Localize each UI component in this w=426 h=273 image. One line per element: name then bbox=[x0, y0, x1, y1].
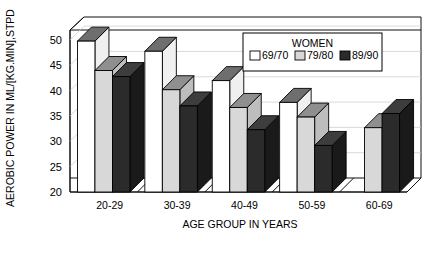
bar-front-face bbox=[297, 117, 315, 192]
chart-canvas: 20253035404550 20-2930-3940-4950-5960-69… bbox=[0, 0, 426, 273]
bar-side-face bbox=[130, 63, 144, 192]
bar-side-face bbox=[400, 100, 414, 192]
bar-front-face bbox=[162, 90, 180, 192]
legend-swatch bbox=[340, 51, 350, 60]
legend: WOMEN 69/7079/8089/90 bbox=[243, 33, 382, 71]
legend-label: 69/70 bbox=[262, 49, 288, 61]
bar-front-face bbox=[180, 106, 198, 192]
y-tick-label: 20 bbox=[50, 186, 62, 198]
legend-entry: 69/70 bbox=[250, 49, 288, 61]
legend-swatch bbox=[295, 51, 305, 60]
bar-front-face bbox=[247, 130, 265, 192]
legend-title: WOMEN bbox=[292, 37, 333, 49]
x-tick-label: 30-39 bbox=[164, 199, 191, 211]
bar-front-face bbox=[77, 41, 95, 192]
y-tick-label: 30 bbox=[50, 135, 62, 147]
legend-label: 79/80 bbox=[307, 49, 333, 61]
bar bbox=[382, 100, 414, 192]
x-axis-title: AGE GROUP IN YEARS bbox=[182, 218, 297, 230]
x-tick-label: 40-49 bbox=[231, 199, 258, 211]
bar bbox=[247, 116, 279, 192]
bar bbox=[112, 63, 144, 192]
y-tick-label: 50 bbox=[50, 34, 62, 46]
legend-entry: 89/90 bbox=[340, 49, 378, 61]
legend-entry: 79/80 bbox=[295, 49, 333, 61]
legend-entries: 69/7079/8089/90 bbox=[250, 49, 378, 61]
bar bbox=[315, 131, 347, 192]
legend-swatch bbox=[250, 51, 260, 60]
bar-front-face bbox=[382, 114, 400, 192]
bar bbox=[180, 92, 212, 192]
bar-front-face bbox=[145, 51, 163, 192]
y-tick-labels: 20253035404550 bbox=[50, 34, 62, 198]
y-tick-label: 40 bbox=[50, 85, 62, 97]
y-axis-title: AEROBIC POWER IN ML/[KG.MIN],STPD bbox=[4, 9, 16, 207]
y-tick-label: 45 bbox=[50, 59, 62, 71]
y-tick-label: 25 bbox=[50, 161, 62, 173]
bar-front-face bbox=[95, 71, 113, 193]
bar-front-face bbox=[112, 77, 130, 192]
legend-label: 89/90 bbox=[352, 49, 378, 61]
x-tick-labels: 20-2930-3940-4950-5960-69 bbox=[96, 199, 393, 211]
bar-chart: 20253035404550 20-2930-3940-4950-5960-69… bbox=[0, 0, 426, 273]
bar-front-face bbox=[315, 145, 333, 192]
bar-side-face bbox=[197, 92, 211, 192]
x-tick-label: 60-69 bbox=[366, 199, 393, 211]
bar-front-face bbox=[212, 81, 230, 192]
y-tick-label: 35 bbox=[50, 110, 62, 122]
bar-front-face bbox=[280, 102, 298, 192]
bar-front-face bbox=[230, 107, 248, 192]
bar-front-face bbox=[365, 128, 383, 192]
x-tick-label: 50-59 bbox=[298, 199, 325, 211]
x-tick-label: 20-29 bbox=[96, 199, 123, 211]
